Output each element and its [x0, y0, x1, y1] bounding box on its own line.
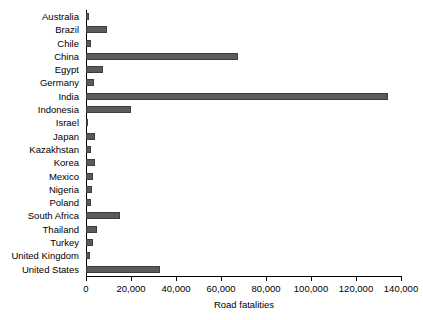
x-axis-tick-label: 0 [83, 283, 88, 294]
y-axis-tick-label: Nigeria [0, 183, 82, 196]
bar [86, 239, 93, 246]
y-axis-tick-label: United Kingdom [0, 249, 82, 262]
bar [86, 13, 89, 20]
bar [86, 66, 103, 73]
bar [86, 146, 91, 153]
x-axis-tick-label: 40,000 [161, 283, 190, 294]
x-axis-tick-label: 120,000 [339, 283, 373, 294]
bar-row [86, 10, 401, 23]
bar-row [86, 196, 401, 209]
bar [86, 266, 160, 273]
bar-row [86, 170, 401, 183]
bar [86, 199, 91, 206]
y-axis-tick-label: Germany [0, 76, 82, 89]
y-axis-tick-label: Brazil [0, 23, 82, 36]
bar-row [86, 103, 401, 116]
x-axis-tick-label: 100,000 [294, 283, 328, 294]
bar-row [86, 236, 401, 249]
y-axis-tick-label: Egypt [0, 63, 82, 76]
bar [86, 106, 131, 113]
bar-row [86, 23, 401, 36]
bar-row [86, 116, 401, 129]
bar [86, 226, 97, 233]
bar-row [86, 37, 401, 50]
x-axis-tick-mark [311, 277, 312, 281]
x-axis-tick-label: 80,000 [251, 283, 280, 294]
y-axis-tick-label: United States [0, 263, 82, 276]
bar [86, 133, 95, 140]
x-axis-line [86, 276, 402, 277]
x-axis-tick-mark [131, 277, 132, 281]
bar [86, 212, 120, 219]
y-axis-tick-label: Kazakhstan [0, 143, 82, 156]
y-axis-tick-label: Israel [0, 116, 82, 129]
bar-row [86, 263, 401, 276]
bar-row [86, 249, 401, 262]
x-axis-tick-label: 60,000 [206, 283, 235, 294]
y-axis-tick-label: India [0, 90, 82, 103]
y-axis-tick-label: South Africa [0, 209, 82, 222]
y-axis-tick-label: Chile [0, 37, 82, 50]
plot-area [86, 10, 401, 276]
bar [86, 53, 238, 60]
y-axis-tick-label: Japan [0, 130, 82, 143]
x-axis-tick-label: 140,000 [384, 283, 418, 294]
x-axis-tick-mark [401, 277, 402, 281]
bar-row [86, 130, 401, 143]
y-axis-tick-label: Poland [0, 196, 82, 209]
y-axis-tick-label: Korea [0, 156, 82, 169]
bar [86, 40, 91, 47]
bar [86, 159, 95, 166]
x-axis-tick-mark [266, 277, 267, 281]
bar-row [86, 183, 401, 196]
bar [86, 186, 92, 193]
bar [86, 119, 88, 126]
bar-row [86, 50, 401, 63]
bar [86, 26, 107, 33]
bar-row [86, 143, 401, 156]
bar-row [86, 63, 401, 76]
y-axis-tick-label: Australia [0, 10, 82, 23]
bar-rows [86, 10, 401, 276]
bar-row [86, 156, 401, 169]
bar-row [86, 90, 401, 103]
x-axis-tick-mark [176, 277, 177, 281]
x-axis-tick-mark [86, 277, 87, 281]
x-axis-tick-mark [221, 277, 222, 281]
x-axis-tick-label: 20,000 [116, 283, 145, 294]
x-axis-title: Road fatalities [86, 299, 402, 310]
bar [86, 173, 93, 180]
x-axis-tick-mark [356, 277, 357, 281]
bar-row [86, 223, 401, 236]
y-axis-tick-labels: AustraliaBrazilChileChinaEgyptGermanyInd… [0, 10, 82, 276]
bar [86, 252, 90, 259]
bar-row [86, 209, 401, 222]
y-axis-tick-label: Mexico [0, 170, 82, 183]
y-axis-tick-label: Indonesia [0, 103, 82, 116]
y-axis-tick-label: Turkey [0, 236, 82, 249]
road-fatalities-bar-chart: AustraliaBrazilChileChinaEgyptGermanyInd… [0, 0, 423, 320]
y-axis-tick-label: China [0, 50, 82, 63]
y-axis-tick-label: Thailand [0, 223, 82, 236]
bar [86, 93, 388, 100]
bar [86, 79, 94, 86]
bar-row [86, 76, 401, 89]
